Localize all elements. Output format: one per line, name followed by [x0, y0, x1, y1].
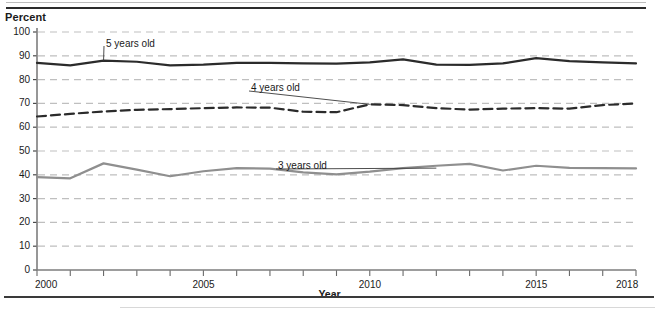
y-tick-label: 80 — [0, 75, 30, 85]
gridlines-group — [33, 32, 636, 270]
chart-plot-area — [0, 0, 659, 313]
x-tick-marks-group — [37, 270, 636, 276]
series-callout-5-years-old: 5 years old — [106, 38, 155, 49]
y-tick-label: 90 — [0, 51, 30, 61]
series-line-5-years-old — [37, 58, 636, 65]
page-rule-bottom-faint — [120, 307, 655, 308]
y-tick-label: 70 — [0, 98, 30, 108]
y-tick-label: 10 — [0, 241, 30, 251]
y-tick-label: 20 — [0, 217, 30, 227]
y-tick-label: 100 — [0, 27, 30, 37]
y-tick-label: 30 — [0, 194, 30, 204]
series-callout-4-years-old: 4 years old — [251, 82, 300, 93]
series-callout-3-years-old: 3 years old — [278, 160, 327, 171]
y-tick-label: 0 — [0, 265, 30, 275]
series-line-3-years-old — [37, 163, 636, 178]
series-line-4-years-old — [37, 103, 636, 116]
chart-figure: Percent 0102030405060708090100 200020052… — [0, 0, 659, 313]
x-axis-title: Year — [0, 288, 659, 300]
y-tick-label: 40 — [0, 170, 30, 180]
page-rule-bottom — [4, 296, 654, 298]
series-paths-group — [37, 58, 636, 178]
y-tick-label: 60 — [0, 122, 30, 132]
y-tick-label: 50 — [0, 146, 30, 156]
